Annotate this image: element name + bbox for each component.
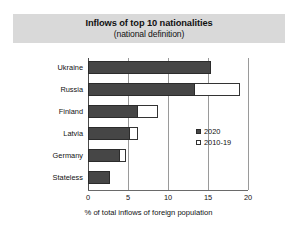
chart-figure: Inflows of top 10 nationalities (nationa… xyxy=(0,0,297,238)
bar-2020-ukraine xyxy=(88,61,211,74)
bar-row: Russia xyxy=(88,80,248,102)
category-label-ukraine: Ukraine xyxy=(58,61,83,74)
bar-row: Finland xyxy=(88,102,248,124)
bar-row: Ukraine xyxy=(88,58,248,80)
plot-area: UkraineRussiaFinlandLatviaGermanyStatele… xyxy=(88,58,248,190)
category-label-finland: Finland xyxy=(59,105,83,118)
category-label-latvia: Latvia xyxy=(63,127,83,140)
x-axis-line xyxy=(88,190,248,191)
x-tick-label-15: 15 xyxy=(204,193,212,202)
category-label-stateless: Stateless xyxy=(53,171,83,184)
category-label-germany: Germany xyxy=(53,149,83,162)
x-tick-label-10: 10 xyxy=(164,193,172,202)
bar-row: Stateless xyxy=(88,168,248,190)
bar-2020-stateless xyxy=(88,171,110,184)
legend-swatch-hollow-icon xyxy=(196,140,201,145)
legend-label-2010-19: 2010-19 xyxy=(204,138,231,147)
gridline-20 xyxy=(248,58,249,190)
x-tick-label-20: 20 xyxy=(244,193,252,202)
legend-swatch-filled-icon xyxy=(196,129,201,134)
chart-legend: 2020 2010-19 xyxy=(196,127,231,147)
x-axis-title: % of total inflows of foreign population xyxy=(0,208,297,217)
bar-2020-russia xyxy=(88,83,195,96)
bar-2020-germany xyxy=(88,149,120,162)
x-tick-label-0: 0 xyxy=(86,193,90,202)
bar-2020-latvia xyxy=(88,127,130,140)
legend-item-2020: 2020 xyxy=(196,127,231,136)
bar-row: Germany xyxy=(88,146,248,168)
x-tick-label-5: 5 xyxy=(126,193,130,202)
plot-wrapper: UkraineRussiaFinlandLatviaGermanyStatele… xyxy=(0,0,297,238)
legend-label-2020: 2020 xyxy=(204,127,220,136)
legend-item-2010-19: 2010-19 xyxy=(196,138,231,147)
bar-2020-finland xyxy=(88,105,138,118)
category-label-russia: Russia xyxy=(60,83,83,96)
